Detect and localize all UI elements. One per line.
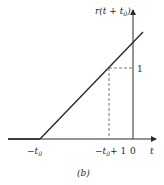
tick-label-zero: 0 bbox=[130, 146, 136, 156]
figure-caption: (b) bbox=[77, 168, 90, 178]
tick-label-neg-t0-plus-1: −t0+ 1 bbox=[95, 146, 126, 157]
ramp-diagram: r(t + t0) 1 −t0 −t0+ 1 0 t (b) bbox=[0, 0, 164, 185]
ramp-rising-segment bbox=[40, 32, 143, 139]
tick-label-neg-t0: −t0 bbox=[27, 146, 42, 157]
x-axis-label: t bbox=[150, 146, 154, 156]
tick-label-one: 1 bbox=[137, 64, 143, 74]
y-axis-label: r(t + t0) bbox=[95, 6, 131, 17]
